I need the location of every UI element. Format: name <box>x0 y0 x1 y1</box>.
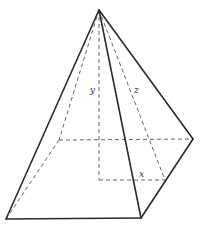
slant-height-line-z <box>99 10 165 180</box>
edge-apex-front-right <box>99 10 141 218</box>
edge-front-left-front-right <box>6 218 141 219</box>
pyramid-svg <box>0 0 200 226</box>
edge-apex-back-right <box>99 10 193 139</box>
label-x: x <box>139 170 144 179</box>
pyramid-diagram: y z x <box>0 0 200 226</box>
hidden-edge-apex-back-left <box>59 10 99 140</box>
hidden-edge-back-left-front-left <box>6 140 59 219</box>
edge-apex-front-left <box>6 10 99 219</box>
label-z: z <box>134 86 139 95</box>
edge-front-right-back-right <box>141 139 193 218</box>
label-y: y <box>90 86 95 95</box>
